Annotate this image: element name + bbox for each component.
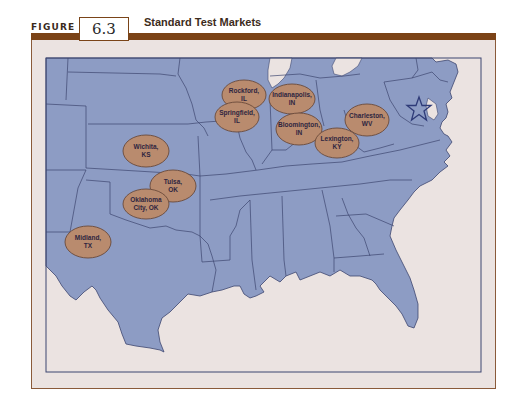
figure-number: 6.3 bbox=[92, 20, 116, 38]
market-oval-indianapolis[interactable] bbox=[269, 84, 315, 114]
figure-number-box: 6.3 bbox=[79, 17, 129, 41]
market-oval-lexington[interactable] bbox=[315, 128, 359, 158]
market-oval-springfield[interactable] bbox=[215, 102, 259, 132]
us-map bbox=[0, 0, 522, 406]
market-oval-oklahoma-city[interactable] bbox=[123, 189, 169, 219]
market-oval-charleston[interactable] bbox=[345, 104, 389, 136]
market-oval-midland[interactable] bbox=[65, 226, 111, 258]
market-oval-wichita[interactable] bbox=[123, 135, 169, 167]
